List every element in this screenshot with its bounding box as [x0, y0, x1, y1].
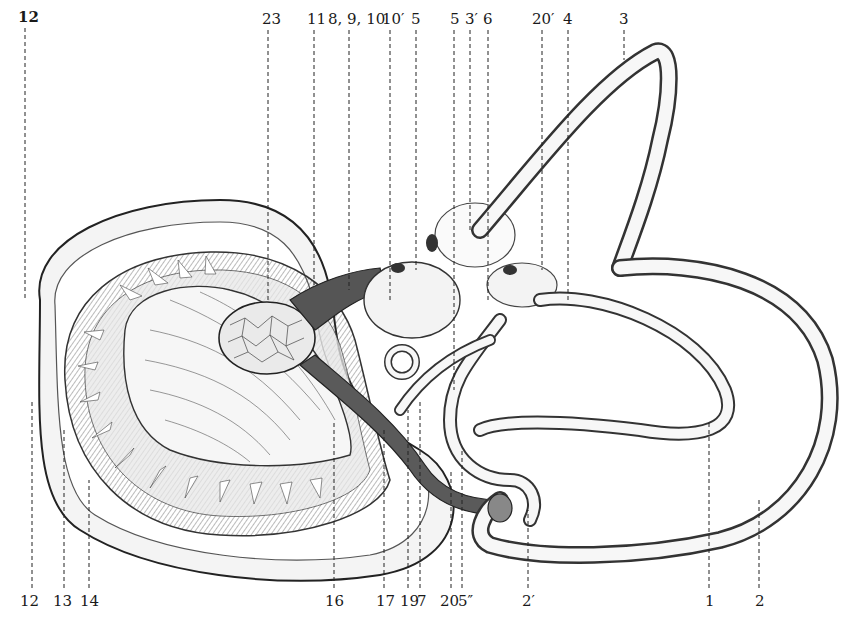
vestibular-sacs — [364, 203, 557, 338]
label-top-20-prime: 20′ — [532, 12, 555, 27]
label-bottom-5-double-prime: 5″ — [458, 594, 473, 609]
label-bottom-12: 12 — [20, 594, 39, 609]
label-bottom-17: 17 — [376, 594, 395, 609]
label-bottom-1: 1 — [705, 594, 715, 609]
label-top-6: 6 — [483, 12, 493, 27]
label-top-10-prime: 10′ — [382, 12, 405, 27]
label-bottom-16: 16 — [325, 594, 344, 609]
labyrinth-drawing — [0, 0, 844, 619]
label-bottom-13: 13 — [53, 594, 72, 609]
label-bottom-14: 14 — [80, 594, 99, 609]
label-top-12: 12 — [18, 10, 39, 25]
label-top-3: 3 — [619, 12, 629, 27]
label-top-5b: 5 — [450, 12, 460, 27]
label-bottom-2: 2 — [755, 594, 765, 609]
label-top-3-prime: 3′ — [465, 12, 478, 27]
label-top-8-9-10: 8, 9, 10 — [328, 12, 385, 27]
ampulla — [488, 494, 512, 522]
label-bottom-2-prime: 2′ — [522, 594, 535, 609]
label-top-4: 4 — [563, 12, 573, 27]
labyrinth-figure: 12 23 11 8, 9, 10 10′ 5 5 3′ 6 20′ 4 3 1… — [0, 0, 844, 619]
label-top-23: 23 — [262, 12, 281, 27]
label-top-11: 11 — [307, 12, 326, 27]
label-top-5a: 5 — [411, 12, 421, 27]
label-bottom-20: 20 — [440, 594, 459, 609]
label-bottom-7: 7 — [417, 594, 427, 609]
